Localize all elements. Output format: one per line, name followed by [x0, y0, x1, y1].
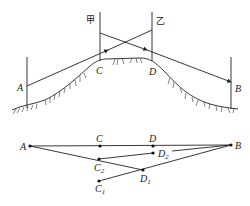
- point-b: [229, 143, 232, 146]
- label-c1: C1: [95, 183, 105, 196]
- label-top-a: A: [16, 82, 24, 93]
- point-d1: [141, 168, 144, 171]
- sight-line-jia-to-b-cont: [147, 50, 231, 82]
- point-a: [28, 144, 31, 147]
- line-c2-d2: [99, 153, 153, 159]
- label-top-d: D: [148, 66, 157, 77]
- plan-view: A C D B C2 D2 D1 C1: [19, 133, 241, 196]
- line-a-b: [30, 145, 231, 146]
- label-yi: 乙: [156, 16, 165, 26]
- label-top-b: B: [235, 83, 241, 94]
- label-b: B: [235, 140, 241, 151]
- ground-hatching: [13, 58, 234, 114]
- label-jia: 甲: [86, 15, 95, 25]
- point-d2: [151, 151, 154, 154]
- label-a: A: [19, 141, 27, 152]
- point-c2: [97, 157, 100, 160]
- label-top-c: C: [96, 65, 103, 76]
- label-c2: C2: [94, 162, 105, 175]
- label-d1: D1: [139, 173, 151, 186]
- point-c: [98, 144, 101, 147]
- label-d: D: [148, 133, 157, 144]
- label-c: C: [96, 133, 103, 144]
- label-d2: D2: [157, 148, 169, 161]
- survey-diagram: 甲 乙 A C D B A C D B C2 D2 D1 C1: [0, 0, 250, 206]
- terrain-profile: [12, 58, 238, 114]
- line-a-d1: [30, 146, 143, 170]
- line-d2-b: [172, 145, 231, 151]
- sight-line-a-to-yi-cont: [108, 30, 152, 50]
- point-d: [151, 144, 154, 147]
